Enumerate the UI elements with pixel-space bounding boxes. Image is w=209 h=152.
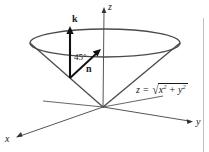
y-axis-arrowhead [187, 119, 193, 124]
equation-term2-exponent: 2 [182, 83, 185, 90]
z-axis-label: z [108, 2, 112, 12]
k-vector-label: k [72, 14, 78, 24]
cone-right-edge [103, 43, 180, 107]
n-vector-label: n [86, 64, 92, 74]
cone-equation-row: z = √ x2+y2 [136, 83, 188, 96]
x-axis-arrowhead [16, 132, 23, 138]
cone-figure: z y x k n 45° z = √ x2+y2 [0, 0, 209, 152]
radical-sign-icon: √ [152, 83, 158, 96]
tangent-plane-left-line [43, 101, 103, 107]
equation-plus: + [169, 84, 175, 95]
equation-radical: √ x2+y2 [152, 83, 188, 96]
equation-radicand: x2+y2 [158, 83, 188, 96]
angle-label: 45° [74, 53, 87, 62]
y-axis-label: y [196, 117, 200, 127]
cone-left-edge [30, 43, 103, 107]
tangent-plane-right-line [103, 96, 163, 107]
y-axis-line [103, 107, 189, 121]
equation-lhs: z [136, 85, 140, 95]
cone-diagram-svg [0, 0, 209, 152]
z-axis-line [103, 11, 104, 108]
x-axis-line [20, 107, 103, 136]
cone-equation-label: z = √ x2+y2 [136, 83, 188, 96]
cone-rim-ellipse [30, 29, 180, 57]
equation-term1-exponent: 2 [163, 83, 166, 90]
z-axis-arrowhead [102, 7, 107, 13]
x-axis-label: x [5, 134, 9, 144]
equation-operator: = [143, 85, 149, 95]
